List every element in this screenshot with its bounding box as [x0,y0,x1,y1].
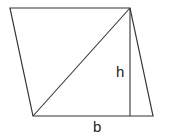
base-label: b [93,118,101,135]
diagonal-line [33,8,130,116]
parallelogram-diagram: h b [0,0,169,135]
height-label: h [116,63,124,80]
